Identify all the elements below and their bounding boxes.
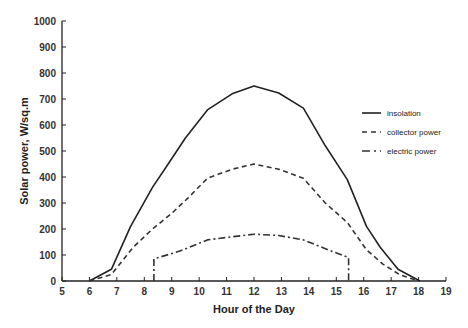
x-axis-ticks: 5678910111213141516171819 xyxy=(59,277,452,297)
x-tick-label: 19 xyxy=(440,286,452,297)
y-axis-ticks: 01002003004005006007008009001000 xyxy=(34,16,66,287)
x-tick-label: 14 xyxy=(303,286,315,297)
legend-label: electric power xyxy=(387,147,437,156)
y-tick-label: 800 xyxy=(39,68,56,79)
x-tick-label: 18 xyxy=(413,286,425,297)
x-tick-label: 9 xyxy=(169,286,175,297)
series-electric-power-line xyxy=(154,234,349,281)
x-tick-label: 13 xyxy=(276,286,288,297)
x-tick-label: 5 xyxy=(59,286,65,297)
series-collector-power-line xyxy=(89,164,418,281)
x-tick-label: 7 xyxy=(114,286,120,297)
x-tick-label: 6 xyxy=(87,286,93,297)
legend-label: collector power xyxy=(387,128,441,137)
x-tick-label: 11 xyxy=(221,286,232,297)
y-tick-label: 200 xyxy=(39,224,56,235)
y-tick-label: 100 xyxy=(39,250,56,261)
y-tick-label: 400 xyxy=(39,172,56,183)
x-axis-title: Hour of the Day xyxy=(213,303,296,315)
y-tick-label: 500 xyxy=(39,146,56,157)
y-tick-label: 600 xyxy=(39,120,56,131)
series-layer xyxy=(89,86,420,281)
x-tick-label: 12 xyxy=(248,286,260,297)
x-tick-label: 8 xyxy=(142,286,148,297)
y-tick-label: 1000 xyxy=(34,16,57,27)
x-tick-label: 10 xyxy=(194,286,206,297)
y-axis-title: Solar power, W/sq.m xyxy=(18,97,30,205)
line-chart: 01002003004005006007008009001000 5678910… xyxy=(0,0,468,328)
legend-label: insolation xyxy=(387,109,421,118)
x-tick-label: 17 xyxy=(386,286,398,297)
x-tick-label: 15 xyxy=(331,286,343,297)
y-tick-label: 900 xyxy=(39,42,56,53)
legend: insolationcollector powerelectric power xyxy=(362,109,441,156)
y-tick-label: 700 xyxy=(39,94,56,105)
x-tick-label: 16 xyxy=(358,286,370,297)
y-tick-label: 0 xyxy=(50,276,56,287)
series-insolation-line xyxy=(89,86,420,281)
y-tick-label: 300 xyxy=(39,198,56,209)
